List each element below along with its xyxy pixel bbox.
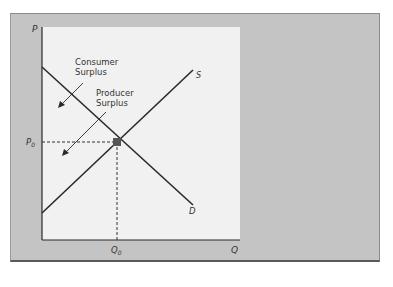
price-equilibrium-label: P0	[26, 137, 35, 148]
producer-surplus-label-line1: Producer	[96, 88, 134, 98]
supply-label: S	[196, 71, 201, 80]
consumer-surplus-label-line1: Consumer	[75, 57, 119, 67]
supply-demand-diagram: P Q S D Consumer Surplus Producer Surplu…	[0, 0, 393, 287]
x-axis-label: Q	[231, 245, 238, 255]
equilibrium-point	[113, 138, 121, 146]
y-axis-label: P	[32, 24, 38, 34]
producer-surplus-label-line2: Surplus	[96, 98, 128, 108]
consumer-surplus-arrow-icon	[58, 83, 83, 108]
demand-label: D	[189, 206, 196, 216]
quantity-equilibrium-label: Q0	[111, 245, 122, 256]
producer-surplus-arrow-icon	[62, 112, 106, 156]
consumer-surplus-label-line2: Surplus	[75, 67, 107, 77]
